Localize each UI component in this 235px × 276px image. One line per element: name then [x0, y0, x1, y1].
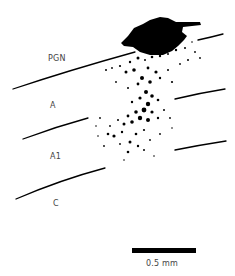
boundary-line-3-right	[175, 141, 226, 150]
boundary-line-1-left	[13, 52, 135, 89]
injection-site	[121, 17, 201, 55]
layer-label-a1: A1	[50, 152, 61, 161]
histology-figure: PGN A A1 C 0.5 mm	[0, 0, 235, 276]
boundary-line-2-left	[23, 118, 88, 139]
boundary-line-1-right	[198, 34, 223, 40]
layer-label-c: C	[53, 199, 59, 208]
boundary-line-3-left	[16, 168, 105, 199]
scale-bar-label: 0.5 mm	[146, 259, 178, 268]
figure-drawing	[0, 0, 235, 276]
boundary-line-2-right	[175, 89, 225, 99]
layer-boundaries	[13, 34, 226, 199]
scale-bar	[132, 248, 196, 253]
layer-label-a: A	[50, 101, 56, 110]
layer-label-pgn: PGN	[48, 54, 66, 63]
